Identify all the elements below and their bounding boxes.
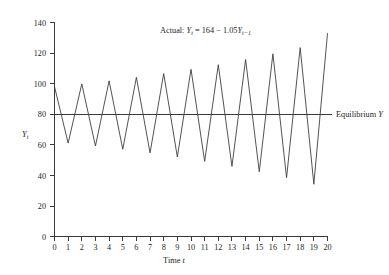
- equilibrium-label-text: Equilibrium: [336, 110, 378, 119]
- x-axis-title-main: Time: [163, 256, 182, 265]
- x-tick-label: 8: [162, 243, 166, 252]
- x-tick-label: 7: [148, 243, 152, 252]
- x-tick-label: 4: [107, 243, 111, 252]
- x-tick-label: 3: [93, 243, 97, 252]
- equilibrium-label: Equilibrium Y: [336, 110, 384, 119]
- y-tick-label: 100: [34, 80, 46, 89]
- x-tick-label: 2: [80, 243, 84, 252]
- chart-figure: 140 120 100 80 60 40 20 0 01234567891011…: [0, 0, 389, 275]
- x-tick-label: 18: [296, 243, 304, 252]
- x-tick-label: 17: [282, 243, 290, 252]
- y-axis-title: Yt: [22, 130, 29, 140]
- y-axis-title-sub: t: [27, 134, 29, 140]
- x-axis-tick-labels: 01234567891011121314151617181920: [52, 243, 331, 252]
- annotation-sub-2: t−1: [242, 30, 251, 36]
- chart-canvas: 140 120 100 80 60 40 20 0 01234567891011…: [0, 0, 389, 275]
- equilibrium-label-var: Y: [378, 110, 384, 119]
- x-tick-label: 13: [228, 243, 236, 252]
- x-tick-label: 11: [201, 243, 209, 252]
- series-line-actual: [55, 33, 328, 184]
- x-tick-label: 10: [187, 243, 195, 252]
- x-axis-title-var: t: [183, 256, 186, 265]
- x-tick-label: 16: [269, 243, 277, 252]
- x-axis-title: Time t: [163, 256, 185, 265]
- x-tick-label: 1: [66, 243, 70, 252]
- y-tick-label: 120: [34, 49, 46, 58]
- y-tick-label: 20: [38, 202, 46, 211]
- y-tick-label: 0: [42, 233, 46, 242]
- x-tick-label: 19: [310, 243, 318, 252]
- y-axis-tick-labels: 140 120 100 80 60 40 20 0: [34, 19, 46, 242]
- y-tick-label: 60: [38, 141, 46, 150]
- y-tick-label: 80: [38, 110, 46, 119]
- x-tick-label: 12: [214, 243, 222, 252]
- annotation-actual-equation: Actual: Yt = 164 − 1.05Yt−1: [160, 26, 251, 36]
- x-tick-label: 14: [242, 243, 250, 252]
- y-tick-label: 140: [34, 19, 46, 28]
- x-tick-label: 0: [52, 243, 56, 252]
- x-tick-label: 15: [255, 243, 263, 252]
- x-axis-ticks: [55, 237, 328, 242]
- annotation-prefix: Actual:: [160, 26, 187, 35]
- x-tick-label: 20: [323, 243, 331, 252]
- x-tick-label: 9: [175, 243, 179, 252]
- x-tick-label: 6: [134, 243, 138, 252]
- y-axis-ticks: [50, 23, 55, 237]
- annotation-mid: = 164 − 1.05: [193, 26, 238, 35]
- x-tick-label: 5: [121, 243, 125, 252]
- y-tick-label: 40: [38, 172, 46, 181]
